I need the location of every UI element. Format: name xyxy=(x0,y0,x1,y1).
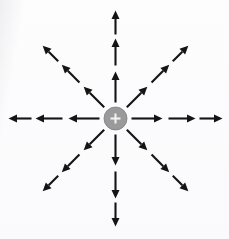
field-ray-east xyxy=(132,115,223,123)
field-arrow-shaft xyxy=(49,52,59,62)
field-arrow-shaft xyxy=(127,130,142,145)
field-ray-south xyxy=(112,135,120,227)
electric-field-diagram: tlrlc + xyxy=(0,0,229,239)
field-arrow-head xyxy=(112,218,120,227)
field-arrow-head xyxy=(187,115,196,123)
field-arrow-shaft xyxy=(49,176,59,186)
field-arrow-shaft xyxy=(152,71,164,83)
field-arrow-head xyxy=(112,157,120,166)
field-arrow-head xyxy=(154,115,163,123)
field-arrow-shaft xyxy=(173,52,183,62)
field-arrow-head xyxy=(69,115,78,123)
field-ray-northeast xyxy=(127,46,189,108)
field-arrow-shaft xyxy=(152,155,164,167)
field-arrow-shaft xyxy=(90,130,105,145)
field-arrow-shaft xyxy=(127,93,142,108)
field-arrow-shaft xyxy=(90,93,105,108)
field-ray-southwest xyxy=(43,130,105,192)
field-ray-north xyxy=(112,11,120,103)
point-charge xyxy=(104,107,127,130)
field-arrow-shaft xyxy=(68,71,80,83)
field-ray-west xyxy=(9,115,100,123)
field-arrow-shaft xyxy=(173,176,183,186)
field-line-canvas xyxy=(0,0,229,239)
field-arrow-head xyxy=(112,39,120,48)
field-arrow-head xyxy=(112,11,120,20)
field-arrow-head xyxy=(214,115,223,123)
field-arrow-head xyxy=(36,115,45,123)
field-ray-southeast xyxy=(127,130,189,192)
field-ray-northwest xyxy=(43,46,105,108)
field-arrow-head xyxy=(112,190,120,199)
field-arrow-shaft xyxy=(68,155,80,167)
field-arrow-head xyxy=(9,115,18,123)
field-arrow-head xyxy=(112,72,120,81)
